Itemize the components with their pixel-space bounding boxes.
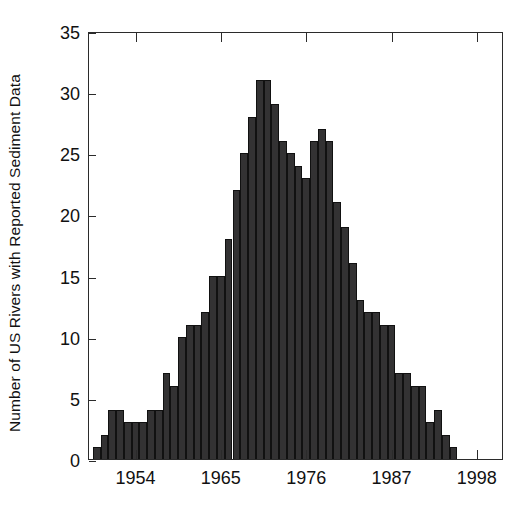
bar [349, 263, 357, 459]
bar [264, 80, 272, 459]
bar [271, 104, 279, 459]
bar [318, 129, 326, 459]
bar [147, 410, 155, 459]
bar [333, 202, 341, 459]
bar [93, 447, 101, 459]
y-tick-label: 30 [60, 84, 80, 105]
bar [256, 80, 264, 459]
bar [233, 190, 241, 459]
x-tick-label: 1987 [371, 468, 411, 489]
x-tick-mark-top [477, 33, 478, 42]
bar [116, 410, 124, 459]
y-tick-mark [89, 155, 96, 156]
y-tick-mark [89, 461, 96, 462]
y-tick-label: 25 [60, 145, 80, 166]
x-tick-mark-top [136, 33, 137, 42]
bar [341, 227, 349, 459]
y-tick-label: 20 [60, 206, 80, 227]
x-tick-label: 1965 [201, 468, 241, 489]
y-tick-label: 10 [60, 328, 80, 349]
bar [442, 435, 450, 459]
bar [139, 422, 147, 459]
bar [163, 373, 171, 459]
bar [434, 410, 442, 459]
bar [411, 386, 419, 459]
bar [240, 153, 248, 459]
x-tick-mark-bottom [136, 450, 137, 459]
bar [201, 312, 209, 459]
bar [124, 422, 132, 459]
y-tick-mark [89, 339, 96, 340]
plot-area: 05101520253035 19541965197619871998 [88, 32, 503, 460]
bar [419, 386, 427, 459]
y-tick-mark [89, 400, 96, 401]
y-tick-label: 35 [60, 23, 80, 44]
bar [170, 386, 178, 459]
bar [357, 300, 365, 459]
x-tick-mark-bottom [306, 450, 307, 459]
x-tick-mark-bottom [477, 450, 478, 459]
bar [194, 325, 202, 460]
bar [217, 276, 225, 459]
y-axis-title: Number of US Rivers with Reported Sedime… [0, 0, 30, 506]
bar [426, 422, 434, 459]
y-tick-mark [89, 33, 96, 34]
bar [178, 337, 186, 459]
bar [388, 325, 396, 460]
x-tick-mark-bottom [221, 450, 222, 459]
bar [248, 117, 256, 459]
y-tick-label: 5 [70, 389, 80, 410]
bar [225, 239, 233, 459]
x-tick-label: 1998 [457, 468, 497, 489]
x-tick-mark-top [221, 33, 222, 42]
bar [364, 312, 372, 459]
bar [326, 141, 334, 459]
bar [287, 153, 295, 459]
bar [380, 325, 388, 460]
bar [395, 373, 403, 459]
bar [108, 410, 116, 459]
bar [279, 141, 287, 459]
x-tick-mark-top [392, 33, 393, 42]
x-tick-mark-bottom [392, 450, 393, 459]
y-tick-label: 15 [60, 267, 80, 288]
bar [101, 435, 109, 459]
bar [372, 312, 380, 459]
y-tick-mark [89, 94, 96, 95]
x-tick-mark-top [306, 33, 307, 42]
histogram-figure: Number of US Rivers with Reported Sedime… [0, 0, 528, 506]
y-tick-mark [89, 278, 96, 279]
bar [403, 373, 411, 459]
bar [310, 141, 318, 459]
bar-series [89, 33, 502, 459]
bar [295, 166, 303, 459]
bar [450, 447, 458, 459]
bar [209, 276, 217, 459]
y-tick-label: 0 [70, 451, 80, 472]
bar [155, 410, 163, 459]
x-tick-label: 1954 [116, 468, 156, 489]
bar [302, 178, 310, 459]
bar [186, 325, 194, 460]
x-tick-label: 1976 [286, 468, 326, 489]
y-tick-mark [89, 216, 96, 217]
